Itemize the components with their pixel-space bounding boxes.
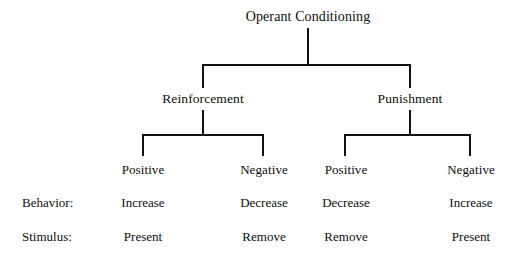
connector-drop-reinforcement-positive bbox=[142, 134, 144, 156]
connector-drop-reinforcement-negative bbox=[262, 134, 264, 156]
branch-node-punishment: Punishment bbox=[378, 90, 443, 107]
root-node-operant-conditioning: Operant Conditioning bbox=[246, 8, 371, 25]
connector-level1-horizontal bbox=[203, 64, 410, 66]
connector-reinforcement-horizontal bbox=[143, 134, 263, 136]
leaf-node-punishment-positive: Positive bbox=[325, 161, 368, 178]
cell-behavior-reinforcement-positive: Increase bbox=[121, 194, 164, 211]
cell-stimulus-punishment-negative: Present bbox=[452, 228, 490, 245]
connector-drop-punishment-positive bbox=[344, 134, 346, 156]
branch-node-reinforcement: Reinforcement bbox=[162, 90, 244, 107]
cell-stimulus-reinforcement-positive: Present bbox=[124, 228, 162, 245]
connector-drop-punishment bbox=[409, 64, 411, 88]
connector-punishment-horizontal bbox=[345, 134, 470, 136]
cell-stimulus-punishment-positive: Remove bbox=[324, 228, 367, 245]
connector-drop-reinforcement bbox=[202, 64, 204, 88]
leaf-node-reinforcement-negative: Negative bbox=[240, 161, 288, 178]
connector-drop-punishment-negative bbox=[469, 134, 471, 156]
connector-reinforcement-stem bbox=[202, 110, 204, 134]
cell-behavior-reinforcement-negative: Decrease bbox=[240, 194, 288, 211]
row-label-stimulus: Stimulus: bbox=[22, 228, 72, 245]
connector-punishment-stem bbox=[409, 110, 411, 134]
operant-conditioning-diagram: Operant Conditioning Reinforcement Punis… bbox=[0, 0, 508, 264]
leaf-node-reinforcement-positive: Positive bbox=[122, 161, 165, 178]
connector-root-stem bbox=[307, 28, 309, 64]
cell-behavior-punishment-positive: Decrease bbox=[322, 194, 370, 211]
cell-behavior-punishment-negative: Increase bbox=[449, 194, 492, 211]
cell-stimulus-reinforcement-negative: Remove bbox=[242, 228, 285, 245]
leaf-node-punishment-negative: Negative bbox=[447, 161, 495, 178]
row-label-behavior: Behavior: bbox=[22, 194, 73, 211]
